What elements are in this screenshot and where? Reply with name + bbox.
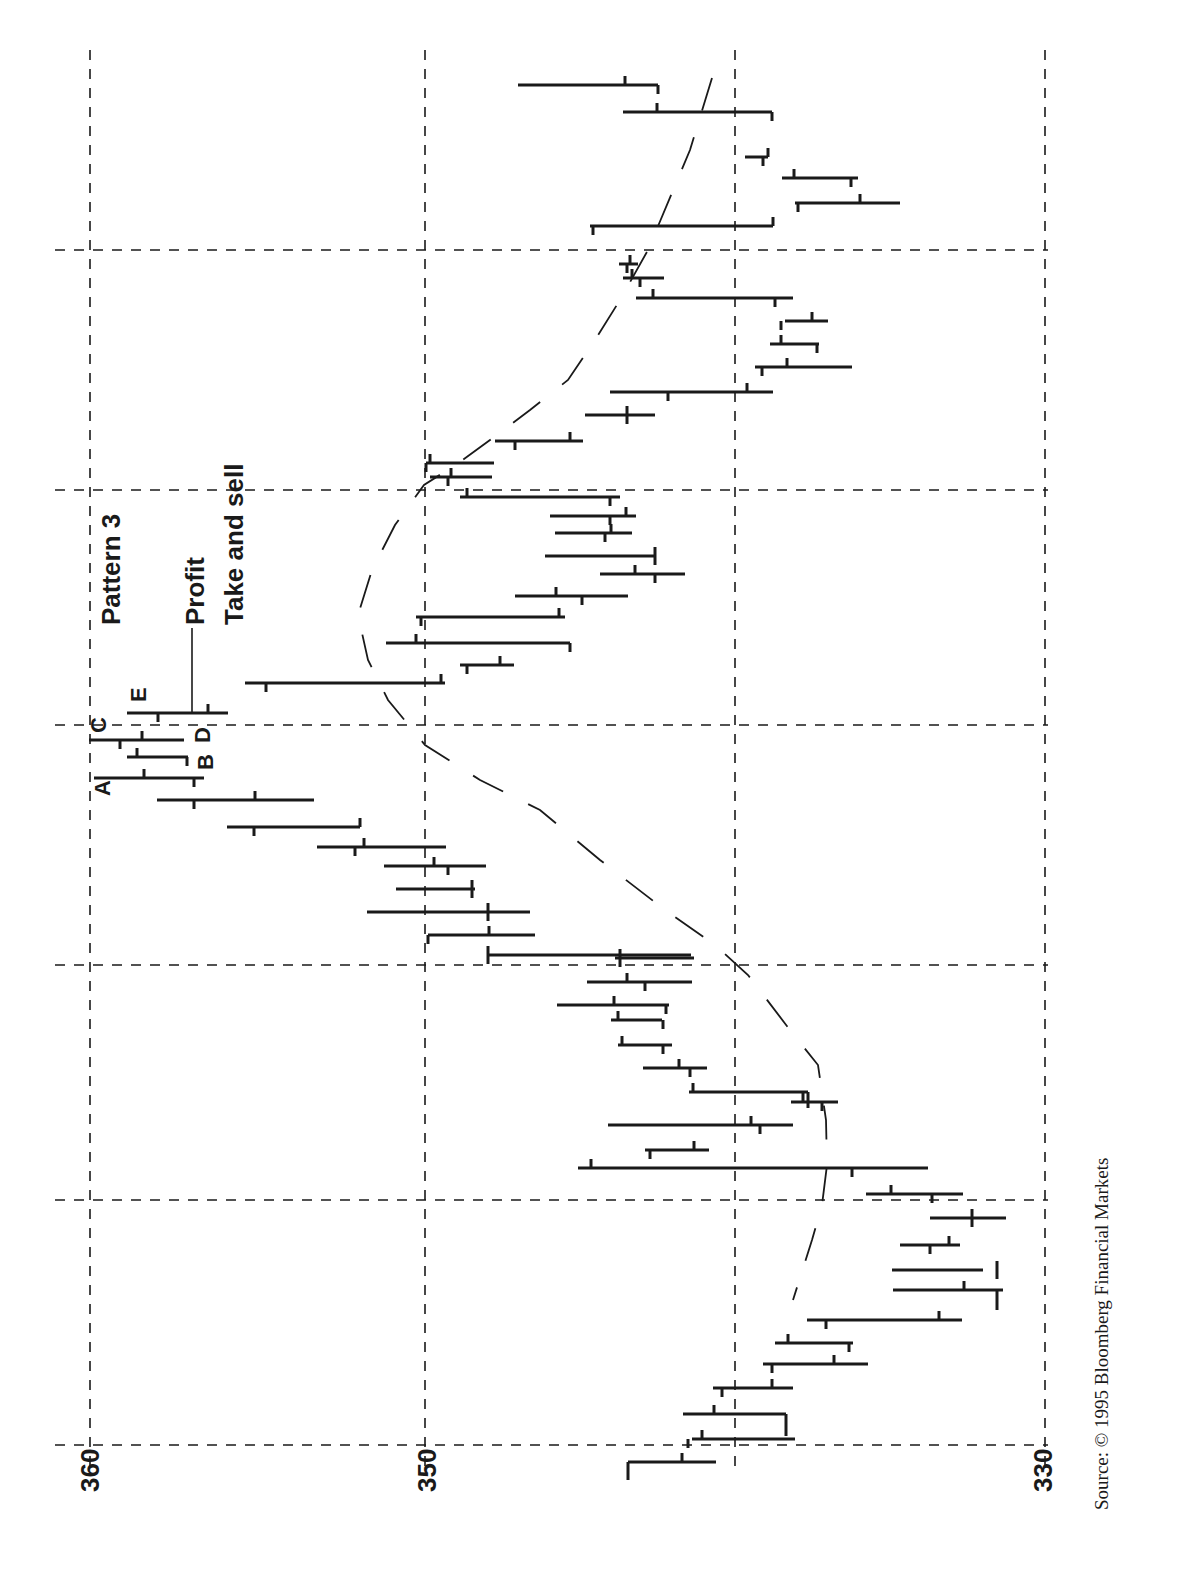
price-bar (745, 148, 768, 166)
price-bar (900, 1236, 960, 1254)
price-bar (608, 1116, 793, 1134)
price-label-350: 350 (412, 1449, 442, 1492)
price-bar (578, 1159, 928, 1177)
price-bar (428, 926, 535, 944)
price-bar (770, 335, 819, 353)
price-bars (89, 76, 1006, 1480)
price-bar (713, 1379, 793, 1397)
price-bar (127, 704, 228, 722)
price-bar (585, 406, 655, 424)
price-bar (555, 524, 632, 542)
price-bar (623, 103, 772, 121)
price-bar (892, 1261, 997, 1279)
price-bar (930, 1209, 1006, 1227)
price-bar (396, 880, 475, 898)
price-bar (611, 1011, 663, 1029)
price-bar (317, 838, 446, 856)
price-bar (587, 973, 692, 991)
price-bar (227, 818, 360, 836)
price-bar (127, 748, 188, 766)
price-bar (791, 1093, 838, 1111)
label-b: B (193, 754, 218, 770)
price-bar (600, 565, 685, 583)
price-bar (623, 269, 664, 287)
price-bar (618, 1036, 672, 1054)
take-and-sell-label: Take and sell (219, 464, 249, 625)
label-d: D (190, 727, 215, 743)
price-label-330: 330 (1028, 1449, 1058, 1492)
price-bar (460, 656, 514, 674)
price-bar (590, 217, 773, 235)
source-credit: Source: © 1995 Bloomberg Financial Marke… (1091, 1158, 1112, 1510)
price-bar (781, 312, 828, 330)
price-bar (550, 507, 636, 525)
price-bar (807, 1311, 962, 1329)
price-bar (619, 255, 638, 273)
price-bar (545, 547, 655, 565)
price-bar (628, 1453, 716, 1480)
price-bar (495, 432, 583, 450)
ohlc-bar-chart: Pattern 3 Profit Take and sell A B C D E… (0, 0, 1187, 1587)
price-bar (515, 587, 628, 605)
price-label-360: 360 (75, 1449, 105, 1492)
moving-average-curve (358, 78, 827, 1300)
price-bar (488, 946, 691, 964)
price-bar (893, 1281, 1003, 1310)
price-bar (557, 996, 669, 1014)
price-bar (643, 1059, 707, 1077)
price-bar (645, 1141, 709, 1159)
price-bar (430, 468, 492, 486)
price-bar (763, 1355, 868, 1373)
price-bar (795, 194, 900, 212)
label-e: E (126, 687, 151, 702)
price-bar (384, 857, 486, 875)
price-bar (775, 1334, 853, 1352)
price-bar (367, 903, 530, 921)
price-bar (610, 383, 773, 401)
price-bar (636, 289, 793, 307)
price-bar (416, 608, 565, 626)
price-bar (386, 634, 570, 652)
profit-label: Profit (180, 557, 210, 625)
label-c: C (86, 717, 111, 733)
price-bar (518, 76, 658, 94)
price-bar (426, 454, 494, 472)
pattern-label: Pattern 3 (96, 514, 126, 625)
price-bar (245, 674, 445, 692)
price-bar (689, 1083, 808, 1108)
price-bar (782, 169, 858, 187)
price-bar (157, 791, 314, 809)
label-a: A (90, 780, 115, 796)
price-bar (755, 358, 852, 376)
